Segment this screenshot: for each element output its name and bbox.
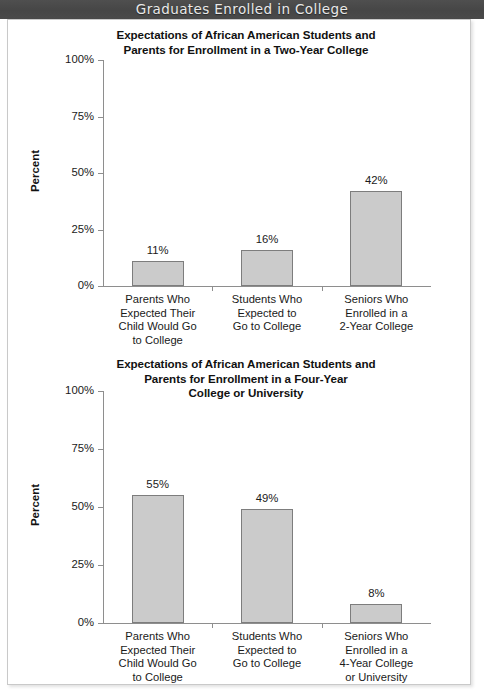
x-axis-category-label-line: or University — [324, 671, 429, 685]
bar-value-label: 11% — [118, 244, 198, 256]
x-axis-category-label-line: Seniors Who — [324, 293, 429, 307]
y-axis-tick — [98, 286, 103, 287]
bar-value-label: 8% — [336, 587, 416, 599]
y-axis-tick — [98, 60, 103, 61]
x-axis-category-label: Parents WhoExpected TheirChild Would Got… — [105, 293, 210, 347]
y-axis-tick — [98, 391, 103, 392]
x-axis-category-label-line: Expected to — [214, 644, 319, 658]
y-axis-tick — [98, 507, 103, 508]
x-axis-category-label-line: Students Who — [214, 630, 319, 644]
x-axis-category-label-line: Parents Who — [105, 293, 210, 307]
x-axis-category-label: Parents WhoExpected TheirChild Would Got… — [105, 630, 210, 684]
bar-value-label: 16% — [227, 233, 307, 245]
bar — [132, 495, 184, 623]
y-axis-label: Percent — [29, 131, 41, 211]
chart-title-line: Parents for Enrollment in a Two-Year Col… — [66, 43, 426, 58]
x-axis-category-label-line: Parents Who — [105, 630, 210, 644]
x-axis-category-label: Seniors WhoEnrolled in a4-Year Collegeor… — [324, 630, 429, 684]
x-axis-category-label-line: Students Who — [214, 293, 319, 307]
bar — [350, 191, 402, 286]
bar — [241, 509, 293, 623]
bar-value-label: 55% — [118, 478, 198, 490]
x-axis-tick — [322, 287, 323, 291]
bar — [132, 261, 184, 286]
x-axis-category-label-line: Enrolled in a — [324, 307, 429, 321]
y-axis-line — [103, 391, 104, 624]
y-axis-tick-label: 100% — [33, 53, 94, 65]
y-axis-line — [103, 60, 104, 287]
x-axis-category-label-line: Expected Their — [105, 644, 210, 658]
bar-value-label: 42% — [336, 174, 416, 186]
x-axis-category-label-line: to College — [105, 334, 210, 348]
y-axis-tick-label: 0% — [33, 616, 94, 628]
x-axis-category-label: Students WhoExpected toGo to College — [214, 630, 319, 671]
y-axis-tick — [98, 623, 103, 624]
bar — [350, 604, 402, 623]
x-axis-category-label-line: Child Would Go — [105, 320, 210, 334]
chart-title-line: Expectations of African American Student… — [66, 28, 426, 43]
y-axis-tick — [98, 565, 103, 566]
y-axis-label: Percent — [29, 465, 41, 545]
y-axis-tick-label: 25% — [33, 223, 94, 235]
x-axis-category-label-line: Child Would Go — [105, 657, 210, 671]
bar-value-label: 49% — [227, 492, 307, 504]
chart-title-line: Parents for Enrollment in a Four-Year — [66, 372, 426, 387]
y-axis-tick-label: 50% — [33, 166, 94, 178]
x-axis-category-label-line: Seniors Who — [324, 630, 429, 644]
x-axis-line — [103, 286, 431, 287]
plot-area: 0%25%50%75%100%Percent55%Parents WhoExpe… — [8, 391, 470, 696]
x-axis-category-label-line: Go to College — [214, 657, 319, 671]
y-axis-tick — [98, 449, 103, 450]
y-axis-tick — [98, 230, 103, 231]
bar — [241, 250, 293, 286]
document-sheet: Expectations of African American Student… — [7, 19, 471, 685]
x-axis-category-label-line: Expected Their — [105, 307, 210, 321]
y-axis-tick-label: 100% — [33, 384, 94, 396]
page-title: Graduates Enrolled in College — [0, 1, 484, 17]
y-axis-tick-label: 50% — [33, 500, 94, 512]
chart-title: Expectations of African American Student… — [66, 28, 426, 57]
plot-area: 0%25%50%75%100%Percent11%Parents WhoExpe… — [8, 60, 470, 396]
x-axis-tick — [322, 624, 323, 628]
x-axis-category-label-line: Expected to — [214, 307, 319, 321]
y-axis-tick — [98, 173, 103, 174]
x-axis-category-label: Students WhoExpected toGo to College — [214, 293, 319, 334]
y-axis-tick-label: 75% — [33, 442, 94, 454]
x-axis-tick — [212, 287, 213, 291]
y-axis-tick — [98, 117, 103, 118]
x-axis-category-label-line: Enrolled in a — [324, 644, 429, 658]
y-axis-tick-label: 25% — [33, 558, 94, 570]
window-header-band: Graduates Enrolled in College — [0, 0, 484, 19]
x-axis-category-label-line: 4-Year College — [324, 657, 429, 671]
x-axis-line — [103, 623, 431, 624]
x-axis-category-label-line: 2-Year College — [324, 320, 429, 334]
y-axis-tick-label: 75% — [33, 110, 94, 122]
x-axis-tick — [212, 624, 213, 628]
chart-title-line: Expectations of African American Student… — [66, 357, 426, 372]
y-axis-tick-label: 0% — [33, 279, 94, 291]
x-axis-category-label-line: Go to College — [214, 320, 319, 334]
x-axis-category-label-line: to College — [105, 671, 210, 685]
x-axis-category-label: Seniors WhoEnrolled in a2-Year College — [324, 293, 429, 334]
